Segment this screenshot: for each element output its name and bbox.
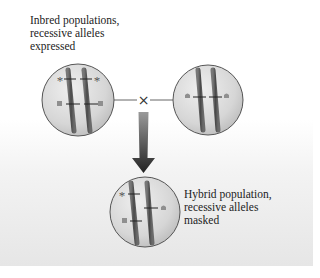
inbred-cell-right: [173, 65, 243, 135]
label-line: masked: [184, 214, 272, 227]
label-line: Inbred populations,: [30, 14, 119, 27]
hybrid-population-label: Hybrid population, recessive alleles mas…: [184, 188, 272, 227]
cross-symbol: ×: [138, 92, 150, 108]
allele-square-marker-icon: [57, 101, 62, 106]
recessive-allele-asterisk-icon: *: [57, 73, 64, 88]
label-line: expressed: [30, 40, 119, 53]
label-line: recessive alleles: [30, 27, 119, 40]
label-line: recessive alleles: [184, 201, 272, 214]
allele-square-marker-icon: [98, 101, 103, 106]
label-line: Hybrid population,: [184, 188, 272, 201]
recessive-allele-asterisk-icon: *: [94, 73, 101, 88]
hybrid-cell: *: [110, 177, 180, 247]
inbred-cell-left: * *: [42, 64, 114, 136]
down-arrow-icon: [132, 112, 155, 173]
recessive-allele-asterisk-icon: *: [119, 188, 126, 203]
allele-square-marker-icon: [122, 218, 127, 223]
inbred-populations-label: Inbred populations, recessive alleles ex…: [30, 14, 119, 53]
cross-connector: ×: [114, 92, 173, 108]
